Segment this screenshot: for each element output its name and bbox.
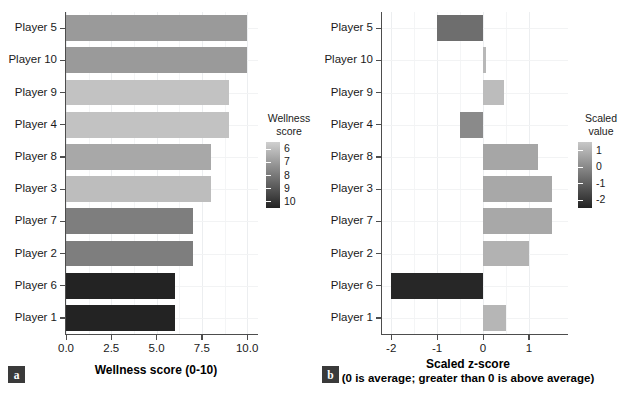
bar-player-5 [66, 15, 247, 41]
x-axis-tick [528, 335, 529, 340]
gridline-category [382, 157, 568, 158]
legend-colorbar [578, 142, 592, 208]
panel-tag-b: b [322, 366, 339, 383]
plot-area-b [382, 12, 568, 334]
y-axis-label-player-1: Player 1 [15, 312, 57, 324]
y-axis-label-player-4: Player 4 [15, 119, 57, 131]
y-axis-label-player-10: Player 10 [8, 54, 57, 66]
legend-label-1: 1 [596, 145, 602, 156]
y-axis-label-player-8: Player 8 [331, 151, 373, 163]
legend-b: Scaledvalue10-1-2 [570, 112, 624, 222]
bar-player-4 [66, 112, 229, 138]
x-axis-title-a: Wellness score (0-10) [0, 364, 312, 378]
x-axis-title-b: Scaled z-score(0 is average; greater tha… [312, 358, 624, 385]
legend-label-8: 8 [284, 170, 290, 181]
y-axis-label-player-5: Player 5 [331, 22, 373, 34]
y-axis-label-player-9: Player 9 [331, 87, 373, 99]
bar-player-10 [66, 47, 247, 73]
legend-a: Wellnessscore678910 [258, 112, 320, 222]
y-axis-label-player-2: Player 2 [15, 248, 57, 260]
figure-container: Player 5Player 10Player 9Player 4Player … [0, 0, 624, 394]
bar-player-4 [460, 112, 483, 138]
bar-player-1 [483, 305, 506, 331]
legend-label-0: 0 [596, 161, 602, 172]
x-axis-line [65, 334, 258, 335]
bar-player-9 [66, 80, 229, 106]
gridline-category [382, 318, 568, 319]
bar-player-7 [66, 208, 193, 234]
legend-title-line2: score [276, 125, 302, 137]
bar-player-2 [483, 241, 529, 267]
legend-tick [578, 183, 583, 184]
x-axis-tick [391, 335, 392, 340]
bar-player-6 [66, 273, 175, 299]
bar-player-5 [437, 15, 483, 41]
y-axis-label-player-7: Player 7 [331, 215, 373, 227]
y-axis-label-player-9: Player 9 [15, 87, 57, 99]
legend-tick [266, 162, 271, 163]
legend-title-line2: value [588, 125, 613, 137]
bar-player-3 [483, 176, 552, 202]
legend-tick [266, 188, 271, 189]
legend-label-6: 6 [284, 143, 290, 154]
x-axis-title-main: Scaled z-score [426, 357, 510, 371]
bar-player-7 [483, 208, 552, 234]
bar-player-2 [66, 241, 193, 267]
plot-area-a [66, 12, 258, 334]
legend-label-9: 9 [284, 183, 290, 194]
legend-title: Wellnessscore [258, 112, 320, 138]
legend-tick [578, 200, 583, 201]
gridline-category [382, 60, 568, 61]
x-tick-label: 10.0 [217, 343, 277, 355]
bar-player-8 [483, 144, 538, 170]
legend-tick [266, 149, 271, 150]
x-axis-tick [201, 335, 202, 340]
panel-a: Player 5Player 10Player 9Player 4Player … [0, 0, 312, 394]
y-axis-label-player-6: Player 6 [331, 280, 373, 292]
y-axis-label-player-6: Player 6 [15, 280, 57, 292]
y-axis-label-player-4: Player 4 [331, 119, 373, 131]
gridline-category [382, 254, 568, 255]
legend-label-neg1: -1 [596, 178, 605, 189]
y-axis-label-player-10: Player 10 [324, 54, 373, 66]
bar-player-8 [66, 144, 211, 170]
bar-player-3 [66, 176, 211, 202]
bar-player-9 [483, 80, 504, 106]
legend-title-line1: Scaled [585, 112, 617, 124]
x-axis-tick [111, 335, 112, 340]
legend-title-line1: Wellness [268, 112, 310, 124]
legend-tick [266, 201, 271, 202]
y-axis-line [381, 12, 382, 334]
x-axis-tick [66, 335, 67, 340]
x-axis-tick [156, 335, 157, 340]
legend-label-7: 7 [284, 156, 290, 167]
x-axis-line [381, 334, 568, 335]
x-axis-title-sub: (0 is average; greater than 0 is above a… [312, 372, 624, 385]
x-tick-label: 1 [499, 343, 559, 355]
legend-title: Scaledvalue [570, 112, 624, 138]
legend-tick [266, 175, 271, 176]
bar-player-10 [483, 47, 486, 73]
y-axis-line [65, 12, 66, 334]
y-axis-label-player-7: Player 7 [15, 215, 57, 227]
bar-player-6 [391, 273, 483, 299]
y-axis-label-player-3: Player 3 [331, 183, 373, 195]
legend-label-neg2: -2 [596, 194, 605, 205]
y-axis-label-player-1: Player 1 [331, 312, 373, 324]
y-axis-label-player-8: Player 8 [15, 151, 57, 163]
y-axis-label-player-3: Player 3 [15, 183, 57, 195]
x-axis-tick [483, 335, 484, 340]
y-axis-label-player-5: Player 5 [15, 22, 57, 34]
x-axis-tick [247, 335, 248, 340]
y-axis-label-player-2: Player 2 [331, 248, 373, 260]
bar-player-1 [66, 305, 175, 331]
x-axis-title-main: Wellness score (0-10) [95, 363, 218, 377]
legend-tick [578, 150, 583, 151]
gridline-category [382, 93, 568, 94]
legend-tick [578, 167, 583, 168]
panel-b: Player 5Player 10Player 9Player 4Player … [312, 0, 624, 394]
panel-tag-a: a [8, 366, 25, 383]
x-axis-tick [437, 335, 438, 340]
legend-label-10: 10 [284, 196, 296, 207]
